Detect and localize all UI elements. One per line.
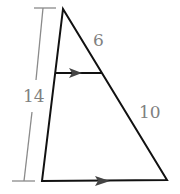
triangle-diagram: 14 6 10 (0, 0, 180, 194)
triangle (42, 9, 167, 181)
label-right-lower: 10 (139, 102, 161, 122)
label-left-total: 14 (23, 86, 45, 106)
label-right-upper: 6 (93, 30, 104, 50)
